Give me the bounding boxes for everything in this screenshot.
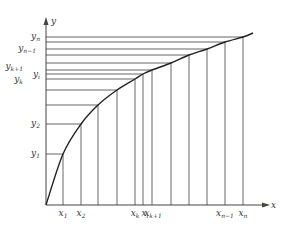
y-tick-label: yi <box>32 69 40 80</box>
x-tick-labels: x1x2xkxixk+1xn−1xn <box>59 208 248 219</box>
curve <box>46 33 253 205</box>
y-axis-arrow-icon <box>44 17 49 25</box>
x-tick-label: x1 <box>59 208 68 219</box>
y-tick-labels: ynyn−1yk+1ykyiy2y1 <box>4 31 40 159</box>
x-axis-arrow-icon <box>262 203 270 208</box>
x-axis-label: x <box>271 200 276 210</box>
axes <box>44 17 271 208</box>
y-axis-label: y <box>50 16 57 26</box>
y-tick-label: yn <box>30 31 40 42</box>
x-tick-label: xk+1 <box>144 208 162 219</box>
diagram-canvas: y x ynyn−1yk+1ykyiy2y1 x1x2xkxixk+1xn−1x… <box>0 0 283 232</box>
x-tick-label: xk <box>131 208 140 219</box>
y-tick-label: y2 <box>30 118 40 129</box>
y-tick-label: yn−1 <box>17 43 36 54</box>
y-tick-label: yk+1 <box>4 61 23 72</box>
x-tick-label: x2 <box>77 208 86 219</box>
x-tick-label: xn−1 <box>216 208 234 219</box>
partition-lines <box>46 37 243 205</box>
x-tick-label: xn <box>239 208 248 219</box>
y-tick-label: y1 <box>30 148 40 159</box>
y-tick-label: yk <box>13 74 23 85</box>
